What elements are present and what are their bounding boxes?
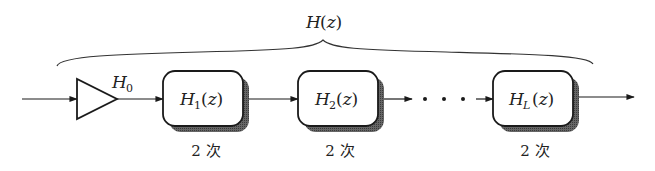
ellipsis-dots — [423, 97, 465, 101]
block-label-sub: 2 — [329, 99, 336, 112]
block-order-label: 2 次 — [191, 142, 220, 160]
block-order-label: 2 次 — [520, 142, 549, 160]
cascade-diagram: H (z) H 0 H 1 (z) 2 次 H 2 (z) 2 次 — [0, 0, 655, 171]
overall-transfer-label: H (z) — [305, 12, 342, 32]
block-label-arg: (z) — [201, 89, 223, 109]
overall-label-arg: (z) — [320, 12, 342, 32]
block-L: H L (z) 2 次 — [493, 71, 579, 160]
triangle-icon — [77, 79, 117, 119]
block-label-arg: (z) — [336, 89, 358, 109]
block-label-sub: 1 — [194, 99, 201, 112]
gain-amplifier: H 0 — [77, 72, 133, 119]
block-order-label: 2 次 — [325, 142, 354, 160]
gain-label-sub: 0 — [126, 82, 133, 95]
block-label-arg: (z) — [532, 89, 554, 109]
diagram-svg: H (z) H 0 H 1 (z) 2 次 H 2 (z) 2 次 — [0, 0, 655, 171]
block-label-sub: L — [522, 99, 530, 112]
block-1: H 1 (z) 2 次 — [163, 71, 249, 160]
overall-brace — [57, 40, 593, 66]
block-2: H 2 (z) 2 次 — [298, 71, 384, 160]
